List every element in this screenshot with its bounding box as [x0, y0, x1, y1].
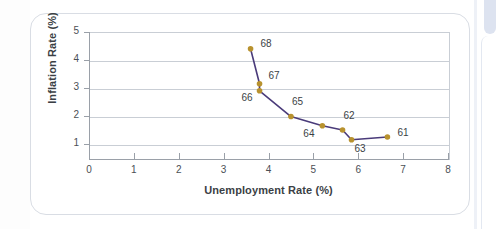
adjacent-tab-marker: [484, 0, 496, 34]
y-tick-label-4: 4: [61, 53, 79, 64]
series-markers: [248, 46, 390, 143]
data-series-layer: [89, 32, 448, 159]
data-point-65[interactable]: [288, 114, 294, 120]
data-point-label-64: 64: [303, 128, 314, 139]
x-tick-8: [448, 153, 449, 160]
series-line: [251, 49, 388, 140]
y-tick-label-5: 5: [61, 25, 79, 36]
y-tick-label-1: 1: [61, 137, 79, 148]
x-tick-label-7: 7: [391, 164, 415, 175]
data-point-label-65: 65: [292, 96, 303, 107]
data-point-label-63: 63: [355, 143, 366, 154]
x-tick-label-0: 0: [77, 164, 101, 175]
chart-card: Inflation Rate (%) 012345678 12345 68676…: [30, 13, 470, 215]
x-tick-label-3: 3: [212, 164, 236, 175]
page-background: Inflation Rate (%) 012345678 12345 68676…: [0, 0, 496, 229]
x-axis-title: Unemployment Rate (%): [89, 184, 448, 196]
x-tick-label-4: 4: [257, 164, 281, 175]
x-tick-label-8: 8: [436, 164, 460, 175]
data-point-62[interactable]: [340, 127, 346, 133]
data-point-label-68: 68: [261, 38, 272, 49]
data-point-label-62: 62: [344, 110, 355, 121]
x-tick-label-6: 6: [346, 164, 370, 175]
data-point-66[interactable]: [257, 88, 263, 94]
data-point-label-61: 61: [397, 127, 408, 138]
data-point-64[interactable]: [320, 123, 326, 129]
data-point-label-66: 66: [242, 92, 253, 103]
data-point-63[interactable]: [349, 137, 355, 143]
page-left-margin: [0, 0, 30, 229]
x-tick-label-1: 1: [122, 164, 146, 175]
y-axis-title: Inflation Rate (%): [46, 0, 58, 124]
data-point-68[interactable]: [248, 46, 254, 52]
x-tick-label-5: 5: [301, 164, 325, 175]
y-tick-label-2: 2: [61, 109, 79, 120]
adjacent-card-edge: [481, 36, 496, 229]
data-point-61[interactable]: [385, 134, 391, 140]
data-point-label-67: 67: [269, 70, 280, 81]
scan-edge-line: [474, 0, 477, 229]
data-point-67[interactable]: [257, 81, 263, 87]
y-tick-label-3: 3: [61, 81, 79, 92]
x-tick-label-2: 2: [167, 164, 191, 175]
